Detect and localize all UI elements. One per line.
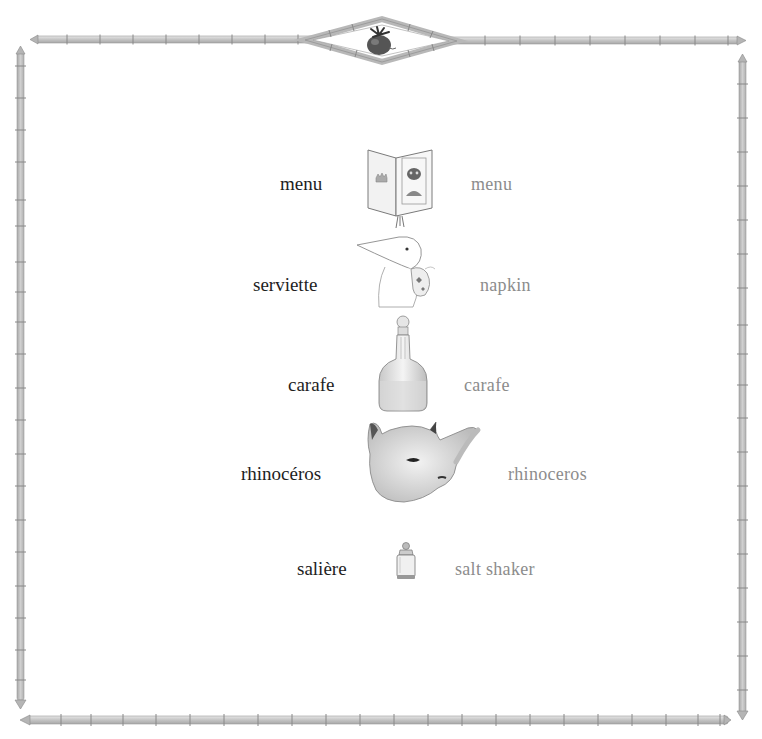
english-translation: menu bbox=[471, 174, 512, 195]
menu-book-icon bbox=[362, 144, 438, 230]
carafe-icon bbox=[375, 315, 431, 415]
salt-shaker-icon bbox=[393, 541, 419, 583]
bird-napkin-icon bbox=[355, 233, 455, 313]
english-translation: rhinoceros bbox=[508, 464, 587, 485]
english-translation: carafe bbox=[464, 375, 510, 396]
french-word: carafe bbox=[288, 374, 334, 396]
vocab-row-rhinoceros: rhinocéros rhinoceros bbox=[0, 474, 762, 475]
rhinoceros-icon bbox=[364, 418, 482, 506]
bamboo-bottom bbox=[20, 714, 731, 726]
bamboo-top-left bbox=[30, 35, 336, 45]
french-word: menu bbox=[280, 173, 322, 195]
vocab-row-serviette: serviette napkin bbox=[0, 285, 762, 286]
bamboo-right bbox=[737, 54, 748, 720]
french-word: rhinocéros bbox=[241, 463, 321, 485]
french-word: serviette bbox=[253, 274, 317, 296]
vocab-row-carafe: carafe carafe bbox=[0, 385, 762, 386]
vocabulary-page: menu menu serviette napkin carafe bbox=[0, 0, 762, 739]
bamboo-left bbox=[15, 46, 26, 709]
english-translation: napkin bbox=[480, 275, 531, 296]
vocab-row-saliere: salière salt shaker bbox=[0, 569, 762, 570]
vocab-row-menu: menu menu bbox=[0, 184, 762, 185]
english-translation: salt shaker bbox=[455, 559, 535, 580]
bamboo-top-right bbox=[448, 36, 746, 46]
french-word: salière bbox=[297, 558, 347, 580]
